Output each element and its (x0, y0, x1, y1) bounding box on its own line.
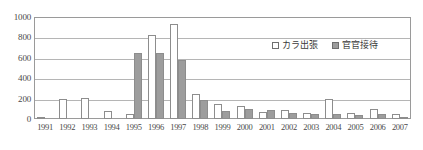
bar-kara-2000 (237, 106, 245, 119)
bar-kankan-2003 (311, 114, 319, 119)
bar-kara-1993 (81, 98, 89, 119)
bar-kankan-1994 (112, 119, 120, 120)
bar-kara-2001 (259, 112, 267, 119)
bar-group-2002 (278, 17, 300, 119)
bar-kankan-1996 (156, 53, 164, 119)
bar-kara-1996 (148, 35, 156, 119)
x-tick-label-2006: 2006 (367, 122, 389, 132)
bar-group-1997 (167, 17, 189, 119)
bar-group-1991 (34, 17, 56, 119)
bar-kankan-2002 (289, 113, 297, 119)
bar-kankan-2006 (378, 114, 386, 119)
x-tick-label-1996: 1996 (145, 122, 167, 132)
bar-kara-1995 (126, 114, 134, 119)
bar-group-1992 (56, 17, 78, 119)
bar-group-1995 (123, 17, 145, 119)
x-tick-label-1997: 1997 (167, 122, 189, 132)
legend-swatch-kara-icon (272, 42, 279, 49)
y-tick-label-400: 400 (1, 74, 31, 83)
bar-group-1999 (211, 17, 233, 119)
legend-item-kankan: 官官接待 (332, 41, 378, 50)
bar-kankan-2001 (267, 110, 275, 119)
x-tick-label-2000: 2000 (234, 122, 256, 132)
bar-group-2007 (389, 17, 411, 119)
x-tick-label-1999: 1999 (211, 122, 233, 132)
y-axis: 1000 800 600 400 200 0 (0, 17, 31, 119)
bar-kara-2004 (325, 99, 333, 119)
x-tick-label-1994: 1994 (101, 122, 123, 132)
x-tick-label-1995: 1995 (123, 122, 145, 132)
bar-group-1996 (145, 17, 167, 119)
bar-kankan-2000 (245, 109, 253, 119)
chart-legend: カラ出張 官官接待 (270, 40, 380, 51)
bar-group-2006 (367, 17, 389, 119)
bar-series-group (34, 17, 411, 119)
bar-group-2000 (234, 17, 256, 119)
bar-kankan-2005 (355, 115, 363, 119)
x-tick-label-2004: 2004 (322, 122, 344, 132)
bar-kara-1997 (170, 24, 178, 119)
legend-label-kankan: 官官接待 (342, 41, 378, 50)
bar-kankan-1997 (178, 60, 186, 119)
bar-kara-1999 (214, 104, 222, 119)
bar-kara-1991 (37, 117, 45, 119)
x-tick-label-2002: 2002 (278, 122, 300, 132)
bar-kara-2007 (392, 114, 400, 119)
bar-group-1998 (189, 17, 211, 119)
bar-kankan-1995 (134, 53, 142, 119)
bar-chart: 1000 800 600 400 200 0 19911992199319941… (0, 0, 423, 150)
bar-kara-2006 (370, 109, 378, 119)
bar-kankan-1998 (200, 100, 208, 119)
bar-group-1994 (101, 17, 123, 119)
y-tick-label-200: 200 (1, 95, 31, 104)
x-tick-label-2001: 2001 (256, 122, 278, 132)
y-tick-label-600: 600 (1, 54, 31, 63)
y-tick-label-1000: 1000 (1, 13, 31, 22)
bar-group-1993 (78, 17, 100, 119)
bar-kara-2005 (347, 113, 355, 119)
bar-group-2001 (256, 17, 278, 119)
bar-group-2005 (344, 17, 366, 119)
x-tick-label-1992: 1992 (56, 122, 78, 132)
x-tick-label-1991: 1991 (34, 122, 56, 132)
bar-kara-1992 (59, 99, 67, 119)
x-tick-label-2005: 2005 (344, 122, 366, 132)
bar-kara-1998 (192, 94, 200, 119)
bar-group-2003 (300, 17, 322, 119)
x-tick-label-2007: 2007 (389, 122, 411, 132)
bar-kara-1994 (104, 111, 112, 119)
bar-kara-2003 (303, 113, 311, 119)
legend-item-kara: カラ出張 (272, 41, 318, 50)
bar-kankan-1999 (222, 111, 230, 119)
bar-kankan-2007 (400, 117, 408, 119)
y-tick-label-800: 800 (1, 33, 31, 42)
legend-swatch-kankan-icon (332, 42, 339, 49)
y-tick-label-0: 0 (1, 115, 31, 124)
bar-kankan-2004 (333, 114, 341, 119)
bar-group-2004 (322, 17, 344, 119)
legend-label-kara: カラ出張 (282, 41, 318, 50)
x-tick-label-1993: 1993 (78, 122, 100, 132)
x-tick-label-2003: 2003 (300, 122, 322, 132)
x-axis: 1991199219931994199519961997199819992000… (34, 122, 411, 132)
bar-kara-2002 (281, 110, 289, 119)
x-tick-label-1998: 1998 (189, 122, 211, 132)
